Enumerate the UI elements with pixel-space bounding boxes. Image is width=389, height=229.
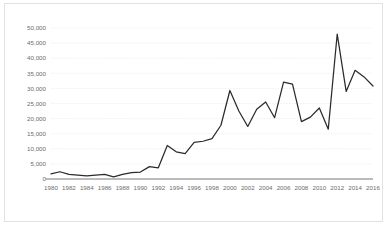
x-axis-tick-label: 1990 — [134, 184, 148, 191]
y-axis-tick-label: 35,000 — [27, 70, 46, 77]
x-axis-tick-label: 1998 — [205, 184, 219, 191]
y-axis-tick-label: 50,000 — [27, 24, 46, 31]
x-axis-tick-label: 2008 — [295, 184, 309, 191]
x-axis-tick-label: 1992 — [151, 184, 165, 191]
y-axis-tick-label: 45,000 — [27, 39, 46, 46]
data-series-line — [51, 34, 373, 177]
x-axis-tick-label: 1980 — [44, 184, 58, 191]
x-axis-tick-label: 2014 — [348, 184, 362, 191]
y-axis-tick-label: 10,000 — [27, 145, 46, 152]
x-axis-tick-label: 1996 — [187, 184, 201, 191]
line-chart: 50,00045,00040,00035,00030,00025,00020,0… — [5, 4, 384, 223]
x-axis-tick-label: 2010 — [312, 184, 326, 191]
x-axis-tick-label: 2006 — [277, 184, 291, 191]
chart-container: 50,00045,00040,00035,00030,00025,00020,0… — [4, 3, 383, 222]
x-axis-tick-label: 2016 — [366, 184, 380, 191]
x-axis-tick-label: 1982 — [62, 184, 76, 191]
x-axis-tick-label: 2012 — [330, 184, 344, 191]
y-axis-tick-labels: 50,00045,00040,00035,00030,00025,00020,0… — [27, 24, 46, 182]
y-axis-tick-label: 30,000 — [27, 85, 46, 92]
x-axis-tick-label: 2004 — [259, 184, 273, 191]
x-axis-tick-labels: 1980198219841986198819901992199419961998… — [44, 184, 380, 191]
x-axis-tick-label: 2002 — [241, 184, 255, 191]
gridline-group — [51, 28, 373, 179]
y-axis-tick-label: 40,000 — [27, 54, 46, 61]
y-axis-tick-label: 15,000 — [27, 130, 46, 137]
x-axis-tick-label: 1986 — [98, 184, 112, 191]
y-axis-tick-label: 20,000 — [27, 115, 46, 122]
x-axis-tick-label: 1994 — [169, 184, 183, 191]
y-axis-tick-label: 5,000 — [31, 160, 47, 167]
x-axis-tick-label: 2000 — [223, 184, 237, 191]
x-axis-tick-label: 1988 — [116, 184, 130, 191]
x-axis-tick-label: 1984 — [80, 184, 94, 191]
y-axis-tick-label: 25,000 — [27, 100, 46, 107]
chart-plot-area: 50,00045,00040,00035,00030,00025,00020,0… — [5, 4, 382, 221]
